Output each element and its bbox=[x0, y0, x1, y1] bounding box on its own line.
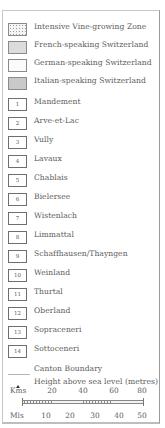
region-number-box: 9 bbox=[8, 250, 27, 263]
region-number-box: 1 bbox=[8, 98, 27, 111]
height-label: Height above sea level (metres) bbox=[34, 377, 158, 386]
scale-bar-graphic bbox=[22, 400, 144, 404]
legend-region-5: 5 Chablais bbox=[8, 172, 68, 188]
kms-unit-label: Kms bbox=[10, 386, 26, 395]
region-label: Limmattal bbox=[34, 230, 74, 239]
kms-tick-label: 20 bbox=[47, 386, 56, 395]
legend-label: German-speaking Switzerland bbox=[34, 58, 152, 67]
region-number-box: 14 bbox=[8, 345, 27, 358]
legend-item-french-speaking: French-speaking Switzerland bbox=[8, 39, 148, 55]
region-label: Arve-et-Lac bbox=[34, 116, 79, 125]
region-label: Thurtal bbox=[34, 287, 63, 296]
region-number-box: 7 bbox=[8, 212, 27, 225]
kms-tick-label: 80 bbox=[137, 386, 146, 395]
legend-item-italian-speaking: Italian-speaking Switzerland bbox=[8, 75, 146, 91]
scale-bar: Kms 20 40 60 80 Mls 10 20 30 40 50 bbox=[8, 386, 158, 424]
mls-tick-label: 50 bbox=[137, 411, 146, 420]
legend-region-4: 4 Lavaux bbox=[8, 153, 62, 169]
dotted-pattern-swatch bbox=[8, 23, 27, 36]
region-number-box: 10 bbox=[8, 269, 27, 282]
legend-region-13: 13 Sopraceneri bbox=[8, 324, 82, 340]
canton-boundary-label: Canton Boundary bbox=[34, 364, 102, 373]
legend-label: Intensive Vine-growing Zone bbox=[34, 22, 146, 31]
region-number-box: 11 bbox=[8, 288, 27, 301]
region-number-box: 13 bbox=[8, 326, 27, 339]
legend-region-8: 8 Limmattal bbox=[8, 229, 74, 245]
legend-region-7: 7 Wistenlach bbox=[8, 210, 77, 226]
region-label: Weinland bbox=[34, 268, 70, 277]
legend-region-11: 11 Thurtal bbox=[8, 286, 63, 302]
legend-region-9: 9 Schaffhausen/Thayngen bbox=[8, 248, 128, 264]
french-swatch bbox=[8, 41, 27, 54]
region-label: Chablais bbox=[34, 173, 68, 182]
legend-region-14: 14 Sottoceneri bbox=[8, 343, 79, 359]
region-label: Vully bbox=[34, 135, 53, 144]
region-number-box: 8 bbox=[8, 231, 27, 244]
region-label: Bielersee bbox=[34, 192, 70, 201]
canton-boundary-line-icon bbox=[8, 374, 30, 375]
region-label: Lavaux bbox=[34, 154, 62, 163]
mls-tick-label: 30 bbox=[90, 411, 99, 420]
legend-item-german-speaking: German-speaking Switzerland bbox=[8, 57, 152, 73]
kms-tick-label: 40 bbox=[78, 386, 87, 395]
legend-label: French-speaking Switzerland bbox=[34, 40, 148, 49]
legend-item-intensive-vine-zone: Intensive Vine-growing Zone bbox=[8, 21, 146, 37]
region-number-box: 2 bbox=[8, 117, 27, 130]
region-number-box: 5 bbox=[8, 174, 27, 187]
region-number-box: 4 bbox=[8, 155, 27, 168]
legend-region-10: 10 Weinland bbox=[8, 267, 70, 283]
mls-tick-label: 10 bbox=[41, 411, 50, 420]
region-number-box: 3 bbox=[8, 136, 27, 149]
region-label: Oberland bbox=[34, 306, 70, 315]
region-number-box: 6 bbox=[8, 193, 27, 206]
region-label: Sottoceneri bbox=[34, 344, 79, 353]
legend-region-12: 12 Oberland bbox=[8, 305, 70, 321]
german-swatch bbox=[8, 59, 27, 72]
legend-region-1: 1 Mandement bbox=[8, 96, 81, 112]
kms-tick-label: 60 bbox=[109, 386, 118, 395]
mls-tick-label: 20 bbox=[65, 411, 74, 420]
legend-label: Italian-speaking Switzerland bbox=[34, 76, 146, 85]
mls-unit-label: Mls bbox=[10, 411, 24, 420]
region-label: Sopraceneri bbox=[34, 325, 82, 334]
region-label: Mandement bbox=[34, 97, 81, 106]
region-number-box: 12 bbox=[8, 307, 27, 320]
mls-tick-label: 40 bbox=[114, 411, 123, 420]
region-label: Schaffhausen/Thayngen bbox=[34, 249, 128, 258]
italian-swatch bbox=[8, 77, 27, 90]
legend-region-2: 2 Arve-et-Lac bbox=[8, 115, 79, 131]
region-label: Wistenlach bbox=[34, 211, 77, 220]
legend-region-6: 6 Bielersee bbox=[8, 191, 70, 207]
legend-region-3: 3 Vully bbox=[8, 134, 53, 150]
